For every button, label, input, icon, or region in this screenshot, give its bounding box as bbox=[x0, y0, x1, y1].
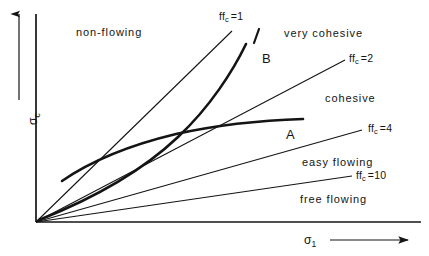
ffc1-line bbox=[36, 31, 232, 222]
ffc2-label-subscript: c bbox=[355, 57, 359, 66]
y-axis-label: σc bbox=[26, 113, 40, 125]
curve-b-label: B bbox=[262, 52, 271, 65]
y-axis-label-sigma: σ bbox=[26, 118, 40, 125]
x-axis-label: σ1 bbox=[304, 233, 316, 247]
curve-a-label: A bbox=[286, 128, 295, 141]
y-axis-label-subscript: c bbox=[32, 113, 42, 117]
ffc10-label-value: =10 bbox=[368, 169, 386, 181]
ffc10-label-subscript: c bbox=[362, 174, 366, 183]
ffc4-line bbox=[36, 130, 362, 222]
region-label-cohesive: cohesive bbox=[325, 93, 376, 104]
ffc1-label-subscript: c bbox=[225, 15, 229, 24]
ffc10-label: ffc=10 bbox=[356, 170, 386, 181]
curve-b-tip-segment bbox=[254, 29, 259, 43]
region-label-easy-flowing: easy flowing bbox=[302, 157, 373, 168]
diagram-canvas bbox=[0, 0, 429, 256]
ffc4-label-subscript: c bbox=[374, 127, 378, 136]
ffc4-label: ffc=4 bbox=[368, 123, 392, 134]
region-label-non-flowing: non-flowing bbox=[76, 27, 142, 38]
ffc2-label-value: =2 bbox=[361, 52, 373, 64]
ffc2-label: ffc=2 bbox=[349, 53, 373, 64]
flowability-diagram: σc σ1 non-flowing very cohesive cohesive… bbox=[0, 0, 429, 256]
x-axis-label-subscript: 1 bbox=[311, 239, 316, 249]
ffc1-label-value: =1 bbox=[231, 10, 243, 22]
region-label-free-flowing: free flowing bbox=[300, 194, 367, 205]
ffc1-label: ffc=1 bbox=[219, 11, 243, 22]
curve-b-path bbox=[39, 44, 246, 220]
ffc2-line bbox=[36, 60, 345, 222]
curve-a-path bbox=[62, 119, 303, 181]
ffc4-label-value: =4 bbox=[380, 122, 392, 134]
region-label-very-cohesive: very cohesive bbox=[284, 28, 363, 39]
